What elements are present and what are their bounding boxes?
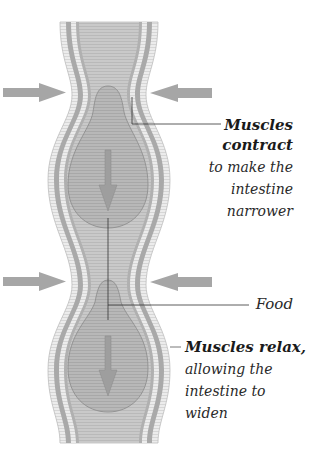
squeeze-arrow-left-upper [3, 83, 66, 102]
label-relax-body-2: intestine to [185, 383, 266, 399]
label-contract-body-2: intestine [231, 181, 293, 197]
label-contract-heading-1: Muscles [223, 116, 293, 134]
label-contract-body-1: to make the [209, 159, 293, 175]
label-relax-body-3: widen [185, 405, 228, 421]
label-contract-body-3: narrower [227, 203, 294, 219]
label-contract-heading-2: contract [222, 136, 293, 154]
label-relax-heading: Muscles relax, [184, 338, 306, 356]
squeeze-arrow-right-lower [150, 273, 212, 291]
peristalsis-diagram: Muscles contract to make the intestine n… [0, 0, 317, 461]
label-muscles-relax: Muscles relax, allowing the intestine to… [184, 338, 306, 421]
label-food: Food [255, 295, 293, 313]
squeeze-arrow-right-upper [150, 84, 212, 102]
label-muscles-contract: Muscles contract to make the intestine n… [209, 116, 295, 219]
label-relax-body-1: allowing the [185, 361, 273, 377]
squeeze-arrow-left-lower [3, 272, 66, 291]
